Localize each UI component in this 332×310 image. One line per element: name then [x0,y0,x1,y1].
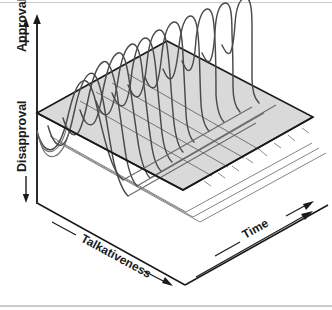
disapproval-axis-label: Disapproval [15,100,29,172]
talkativeness-axis-label: Talkativeness [79,231,154,281]
talkativeness-axis-group: Talkativeness [52,222,173,286]
figure-container: Approval Disapproval Talkativeness Time [0,0,332,310]
zero-plane [37,41,313,190]
approval-axis-label: Approval [15,0,29,52]
vertical-axis-line [33,14,41,204]
three-d-surface-plot: Approval Disapproval Talkativeness Time [0,0,332,310]
time-axis-group: Time [196,201,314,277]
